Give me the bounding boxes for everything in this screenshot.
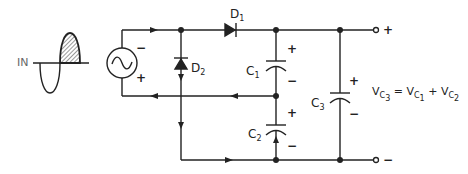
sine-icon [112, 57, 132, 69]
label-c1: C1 [246, 65, 259, 80]
c2-plus: + [287, 107, 297, 119]
label-d2: D2 [191, 62, 205, 77]
input-waveform [33, 33, 89, 93]
output-plus-label: + [383, 24, 393, 36]
c1-plus: + [287, 43, 297, 55]
voltage-equation: VC3 = VC1 + VC2 [372, 86, 459, 103]
source-top-polarity: − [136, 42, 146, 54]
c1-minus: − [287, 75, 297, 87]
output-minus-label: − [383, 154, 393, 166]
output-positive-terminal [374, 28, 379, 33]
circuit-diagram: IN − + D1 D2 C1 + − C2 + − C3 + − + − VC… [0, 0, 468, 174]
output-negative-terminal [374, 158, 379, 163]
diode-d2-icon [174, 58, 188, 69]
source-bottom-polarity: + [136, 72, 146, 84]
label-c3: C3 [311, 97, 324, 112]
c3-minus: − [349, 108, 359, 120]
label-d1: D1 [230, 8, 244, 23]
input-label: IN [17, 57, 28, 68]
label-c2: C2 [248, 128, 261, 143]
diode-d1-icon [225, 23, 236, 37]
c3-plus: + [349, 75, 359, 87]
c2-minus: − [287, 140, 297, 152]
